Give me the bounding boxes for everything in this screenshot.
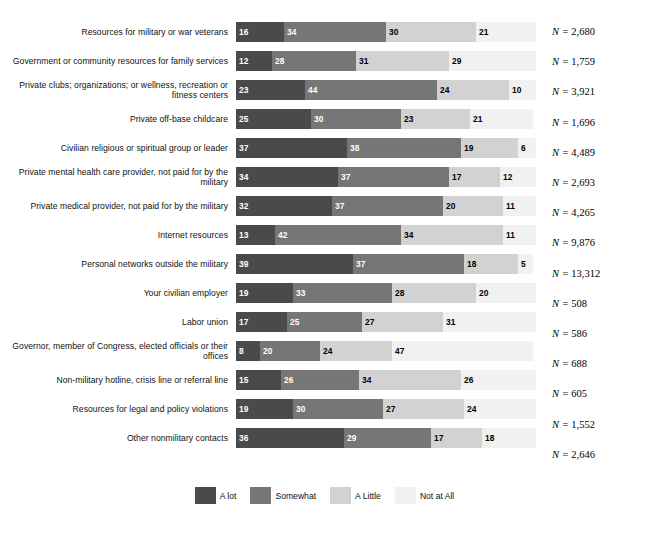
bar-segment-value: 19 (239, 289, 248, 298)
bar-segment: 34 (284, 22, 386, 42)
bar-segment: 24 (437, 80, 509, 100)
legend-swatch (250, 487, 271, 504)
sample-size-value: 1,696 (571, 117, 595, 128)
sample-size-label: N = 2,646 (552, 449, 647, 460)
bar-segment-value: 20 (446, 202, 455, 211)
bar-segment-value: 28 (395, 289, 404, 298)
bar-segment-value: 27 (386, 405, 395, 414)
bar-segment: 20 (260, 341, 320, 361)
bar-row: 17252731 (236, 312, 536, 332)
bar-segment-value: 23 (239, 86, 248, 95)
bar-segment-value: 33 (296, 289, 305, 298)
category-label: Resources for military or war veterans (10, 27, 228, 37)
bar-segment: 17 (236, 312, 287, 332)
sample-size-prefix: N = (552, 117, 571, 128)
sample-size-label: N = 3,921 (552, 86, 647, 97)
bar-segment-value: 39 (239, 260, 248, 269)
bar-segment: 31 (356, 51, 449, 71)
bar-segment: 28 (272, 51, 356, 71)
bar-segment-value: 21 (473, 115, 482, 124)
legend-swatch (330, 487, 351, 504)
bar-segment: 11 (503, 225, 536, 245)
bar-row: 8202447 (236, 341, 536, 361)
bar-row: 19332820 (236, 283, 536, 303)
sample-size-value: 1,759 (571, 56, 595, 67)
bar-row: 36291718 (236, 428, 536, 448)
bar-segment: 23 (401, 109, 470, 129)
bar-row: 34371712 (236, 167, 536, 187)
bar-row: 32372011 (236, 196, 536, 216)
sample-size-value: 2,680 (571, 26, 595, 37)
sample-size-value: 688 (571, 358, 587, 369)
bar-segment: 21 (476, 22, 536, 42)
bar-segment: 29 (344, 428, 431, 448)
category-label: Private clubs; organizations; or wellnes… (10, 80, 228, 101)
bar-row: 23442410 (236, 80, 536, 100)
bar-segment: 21 (470, 109, 533, 129)
bar-segment-value: 37 (341, 173, 350, 182)
bar-segment: 26 (461, 370, 536, 390)
bar-segment-value: 30 (389, 28, 398, 37)
bar-segment: 24 (320, 341, 392, 361)
bar-segment-value: 12 (503, 173, 512, 182)
bar-segment-value: 47 (395, 347, 404, 356)
sample-size-label: N = 586 (552, 328, 647, 339)
bar-segment: 37 (332, 196, 443, 216)
bar-row: 19302724 (236, 399, 536, 419)
bar-segment-value: 19 (464, 144, 473, 153)
sample-size-label: N = 605 (552, 388, 647, 399)
bar-segment: 5 (518, 254, 533, 274)
legend-label: Somewhat (275, 491, 316, 501)
sample-size-prefix: N = (552, 237, 571, 248)
bar-segment: 16 (236, 22, 284, 42)
sample-size-label: N = 688 (552, 358, 647, 369)
bar-segment: 47 (392, 341, 533, 361)
bar-segment-value: 37 (335, 202, 344, 211)
bar-segment-value: 5 (521, 260, 526, 269)
bar-segment: 26 (281, 370, 359, 390)
bar-segment: 30 (293, 399, 383, 419)
sample-size-prefix: N = (552, 388, 571, 399)
bar-segment-value: 31 (359, 57, 368, 66)
bar-row: 15263426 (236, 370, 536, 390)
bar-segment: 37 (236, 138, 347, 158)
bar-segment: 25 (287, 312, 362, 332)
bar-segment-value: 20 (479, 289, 488, 298)
bar-segment: 12 (500, 167, 536, 187)
bar-segment: 44 (305, 80, 437, 100)
sample-size-prefix: N = (552, 147, 571, 158)
bar-segment: 18 (464, 254, 518, 274)
sample-size-prefix: N = (552, 207, 571, 218)
bar-segment-value: 34 (287, 28, 296, 37)
category-label: Internet resources (10, 230, 228, 240)
bar-segment: 17 (449, 167, 500, 187)
sample-size-value: 586 (571, 328, 587, 339)
sample-size-prefix: N = (552, 26, 571, 37)
bar-segment-value: 24 (440, 86, 449, 95)
bar-segment: 29 (449, 51, 536, 71)
sample-size-prefix: N = (552, 358, 571, 369)
bar-segment-value: 28 (275, 57, 284, 66)
category-label: Civilian religious or spiritual group or… (10, 143, 228, 153)
legend-label: A Little (355, 491, 381, 501)
bar-segment: 20 (476, 283, 536, 303)
bar-segment-value: 44 (308, 86, 317, 95)
category-label: Non-military hotline, crisis line or ref… (10, 375, 228, 385)
category-label: Private mental health care provider, not… (10, 167, 228, 188)
bar-segment-value: 24 (323, 347, 332, 356)
bar-segment: 19 (236, 399, 293, 419)
sample-size-prefix: N = (552, 177, 571, 188)
bar-segment-value: 6 (521, 144, 526, 153)
bar-segment-value: 30 (314, 115, 323, 124)
bar-segment-value: 24 (467, 405, 476, 414)
sample-size-value: 2,693 (571, 177, 595, 188)
sample-size-prefix: N = (552, 86, 571, 97)
sample-size-prefix: N = (552, 298, 571, 309)
bar-segment-value: 30 (296, 405, 305, 414)
bar-segment-value: 21 (479, 28, 488, 37)
bar-segment: 27 (362, 312, 443, 332)
bar-segment: 6 (518, 138, 536, 158)
legend-swatch (395, 487, 416, 504)
bar-row: 25302321 (236, 109, 536, 129)
bar-segment: 23 (236, 80, 305, 100)
